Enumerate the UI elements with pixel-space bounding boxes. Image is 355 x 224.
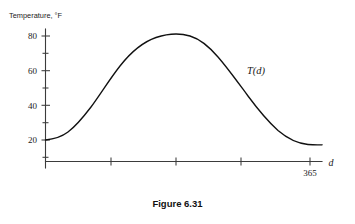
- figure-caption: Figure 6.31: [152, 198, 203, 209]
- figure-container: Temperature, °F 80 60 40 20 365 d T(d) F…: [0, 0, 355, 224]
- temperature-plot: Temperature, °F 80 60 40 20 365 d T(d) F…: [0, 0, 355, 224]
- y-tick-label-40: 40: [28, 101, 38, 111]
- y-tick-label-80: 80: [28, 31, 38, 41]
- curve-label-t-of-d: T(d): [247, 65, 266, 77]
- x-tick-label-365: 365: [303, 168, 317, 178]
- y-tick-label-60: 60: [28, 66, 38, 76]
- y-tick-label-20: 20: [28, 135, 38, 145]
- y-axis-title: Temperature, °F: [9, 11, 63, 20]
